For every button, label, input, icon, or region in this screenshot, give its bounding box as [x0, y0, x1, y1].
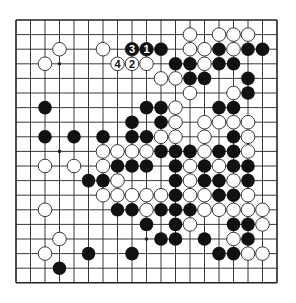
black-stone	[241, 86, 255, 100]
black-stone	[198, 159, 212, 173]
black-stone	[53, 261, 67, 275]
black-stone	[212, 145, 226, 159]
black-stone	[227, 145, 241, 159]
black-stone	[154, 115, 168, 129]
black-stone	[82, 174, 96, 188]
white-stone	[183, 218, 197, 232]
white-stone	[38, 247, 52, 261]
black-stone	[227, 101, 241, 115]
white-stone	[198, 57, 212, 71]
black-stone	[154, 232, 168, 246]
white-stone	[227, 42, 241, 56]
black-stone	[140, 101, 154, 115]
white-stone	[227, 86, 241, 100]
white-stone	[227, 174, 241, 188]
white-stone	[183, 28, 197, 42]
numbered-stone-2: 2	[125, 57, 139, 71]
white-stone	[154, 188, 168, 202]
black-stone	[154, 42, 168, 56]
white-stone	[169, 115, 183, 129]
black-stone	[169, 188, 183, 202]
white-stone	[198, 130, 212, 144]
black-stone	[140, 130, 154, 144]
white-stone	[53, 42, 67, 56]
white-stone	[198, 188, 212, 202]
white-stone	[111, 174, 125, 188]
white-stone	[198, 42, 212, 56]
black-stone	[212, 174, 226, 188]
black-stone	[227, 247, 241, 261]
white-stone	[241, 145, 255, 159]
black-stone	[241, 218, 255, 232]
black-stone	[38, 101, 52, 115]
black-stone	[198, 174, 212, 188]
white-stone	[169, 130, 183, 144]
move-number: 1	[143, 43, 149, 55]
white-stone	[241, 188, 255, 202]
white-stone	[96, 159, 110, 173]
white-stone	[227, 232, 241, 246]
white-stone	[111, 188, 125, 202]
white-stone	[227, 28, 241, 42]
black-stone	[241, 42, 255, 56]
white-stone	[140, 188, 154, 202]
white-stone	[183, 86, 197, 100]
numbered-stone-1: 1	[140, 42, 154, 56]
black-stone	[212, 188, 226, 202]
black-stone	[125, 203, 139, 217]
black-stone	[241, 232, 255, 246]
white-stone	[154, 130, 168, 144]
star-point	[58, 150, 62, 154]
black-stone	[183, 72, 197, 86]
black-stone	[140, 159, 154, 173]
black-stone	[154, 203, 168, 217]
black-stone	[256, 42, 270, 56]
white-stone	[183, 174, 197, 188]
black-stone	[169, 218, 183, 232]
black-stone	[125, 159, 139, 173]
white-stone	[125, 145, 139, 159]
black-stone	[183, 57, 197, 71]
white-stone	[241, 28, 255, 42]
black-stone	[198, 232, 212, 246]
numbered-stone-3: 3	[125, 42, 139, 56]
star-point	[145, 237, 149, 241]
white-stone	[241, 130, 255, 144]
white-stone	[198, 145, 212, 159]
black-stone	[183, 203, 197, 217]
go-board-svg: 1234	[0, 0, 296, 303]
black-stone	[212, 57, 226, 71]
white-stone	[212, 159, 226, 173]
white-stone	[241, 115, 255, 129]
black-stone	[169, 159, 183, 173]
white-stone	[212, 28, 226, 42]
go-board: 1234	[0, 0, 296, 303]
black-stone	[154, 145, 168, 159]
black-stone	[154, 101, 168, 115]
star-point	[58, 62, 62, 66]
black-stone	[241, 72, 255, 86]
white-stone	[38, 203, 52, 217]
black-stone	[169, 145, 183, 159]
white-stone	[96, 145, 110, 159]
white-stone	[198, 115, 212, 129]
white-stone	[96, 42, 110, 56]
black-stone	[227, 218, 241, 232]
black-stone	[140, 218, 154, 232]
white-stone	[241, 203, 255, 217]
black-stone	[241, 159, 255, 173]
black-stone	[38, 130, 52, 144]
black-stone	[169, 203, 183, 217]
black-stone	[169, 57, 183, 71]
white-stone	[169, 72, 183, 86]
white-stone	[183, 42, 197, 56]
white-stone	[96, 188, 110, 202]
white-stone	[67, 159, 81, 173]
black-stone	[111, 159, 125, 173]
white-stone	[38, 57, 52, 71]
move-number: 4	[114, 58, 121, 70]
black-stone	[96, 130, 110, 144]
white-stone	[111, 145, 125, 159]
black-stone	[169, 174, 183, 188]
move-number: 2	[129, 58, 135, 70]
